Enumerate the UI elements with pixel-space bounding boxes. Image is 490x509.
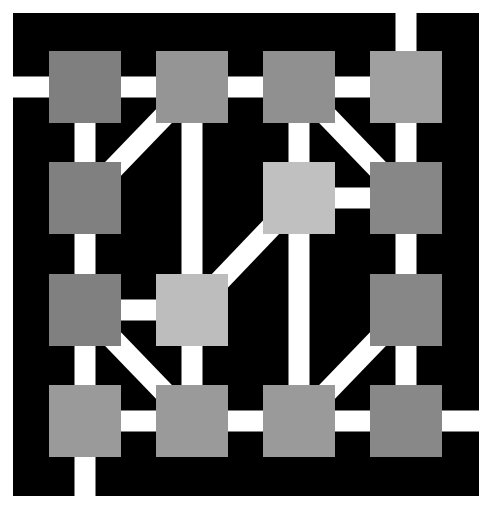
diagram-canvas [0,0,490,509]
node-r0c3 [370,51,442,123]
node-r3c2 [263,385,335,457]
node-r1c2 [263,162,335,234]
node-r0c1 [156,51,228,123]
node-r0c0 [49,51,121,123]
grid-graph-diagram [0,0,490,509]
node-r1c3 [370,162,442,234]
node-r3c0 [49,385,121,457]
node-r3c3 [370,385,442,457]
node-r0c2 [263,51,335,123]
node-r1c0 [49,162,121,234]
node-r3c1 [156,385,228,457]
node-r2c0 [49,274,121,346]
node-r2c3 [370,274,442,346]
node-r2c1 [156,274,228,346]
